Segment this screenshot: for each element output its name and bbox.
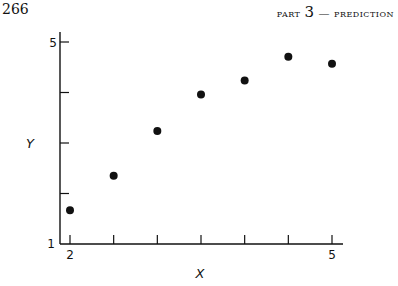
- scatter-chart: 1525YX: [0, 0, 398, 286]
- data-point: [284, 53, 292, 61]
- y-axis-title: Y: [26, 136, 35, 151]
- x-tick-label: 2: [66, 248, 74, 262]
- data-point: [328, 60, 336, 68]
- x-axis-title: X: [195, 266, 206, 281]
- data-point: [153, 127, 161, 135]
- data-point: [110, 172, 118, 180]
- y-tick-label: 1: [47, 237, 55, 251]
- data-point: [66, 206, 74, 214]
- x-tick-label: 5: [328, 248, 336, 262]
- data-point: [241, 76, 249, 84]
- data-point: [197, 91, 205, 99]
- y-tick-label: 5: [49, 36, 57, 50]
